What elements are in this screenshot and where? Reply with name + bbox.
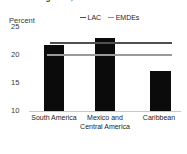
x-axis-label-mexico-central-america: Mexico and Central America [78, 114, 132, 131]
reference-line-lac [50, 42, 172, 44]
y-axis-tick-20: 20 [11, 50, 19, 59]
bar-mexico-central-america [95, 38, 115, 111]
plot-area: 25 20 15 10 South America Mexico and Cen… [0, 0, 187, 154]
x-axis-baseline [29, 111, 181, 112]
reference-line-emdes [47, 54, 172, 56]
x-axis-label-caribbean: Caribbean [132, 114, 186, 123]
bar-caribbean [150, 71, 171, 111]
y-axis-tick-25: 25 [11, 22, 19, 31]
chart-container: Investment growth, 2010-19 Percent LAC E… [0, 0, 187, 154]
y-axis-tick-15: 15 [11, 78, 19, 87]
